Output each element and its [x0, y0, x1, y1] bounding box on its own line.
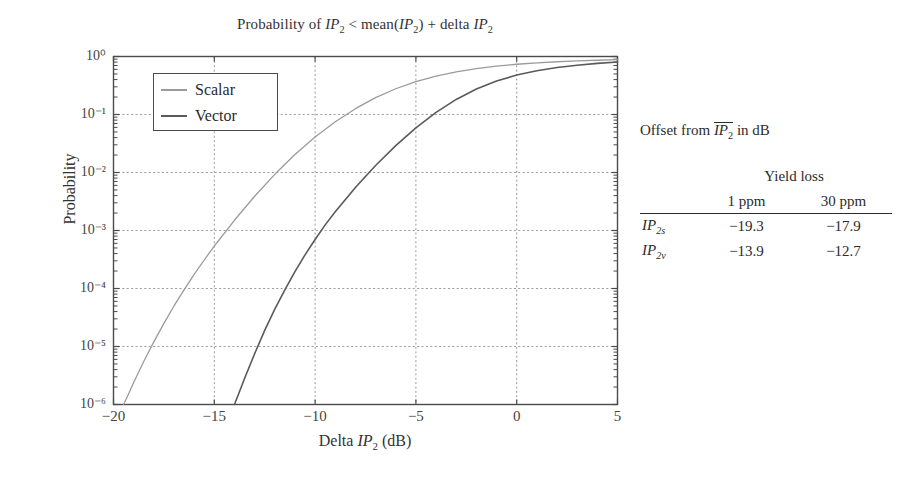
side-table-group-header: Yield loss [640, 168, 910, 185]
table-cell-value: −12.7 [795, 239, 892, 264]
x-axis-label: Delta IP2 (dB) [113, 432, 617, 452]
table-row-label: IP2v [640, 239, 698, 264]
table-col-header-1ppm: 1 ppm [698, 190, 795, 214]
legend-swatch-vector [161, 115, 187, 117]
x-tick-label: −5 [393, 408, 439, 425]
x-tick-label: 5 [595, 408, 641, 425]
table-row: IP2s−19.3−17.9 [640, 213, 892, 239]
x-tick-label: 0 [494, 408, 540, 425]
legend-label-vector: Vector [195, 108, 237, 124]
y-tick-label: 10⁰ [50, 47, 106, 64]
table-row: IP2v−13.9−12.7 [640, 239, 892, 264]
figure-root: Probability of IP2 < mean(IP2) + delta I… [0, 0, 918, 477]
chart-legend: Scalar Vector [153, 73, 278, 131]
table-cell-value: −17.9 [795, 213, 892, 239]
caption-overline-base: IP [714, 122, 728, 138]
side-table: Offset from IP2 in dB Yield loss 1 ppm 3… [640, 122, 910, 264]
side-table-caption: Offset from IP2 in dB [640, 122, 910, 142]
table-col-header-30ppm: 30 ppm [795, 190, 892, 214]
legend-item-scalar: Scalar [154, 77, 277, 103]
y-tick-label: 10⁻¹ [50, 105, 106, 122]
x-tick-label: −15 [191, 408, 237, 425]
caption-overline-term: IP2 [714, 122, 733, 142]
table-header-row: 1 ppm 30 ppm [640, 190, 892, 214]
table-corner-cell [640, 190, 698, 214]
legend-item-vector: Vector [154, 103, 277, 129]
table-body: IP2s−19.3−17.9IP2v−13.9−12.7 [640, 213, 892, 264]
x-tick-label: −10 [292, 408, 338, 425]
y-tick-label: 10⁻⁴ [50, 279, 106, 296]
x-tick-label: −20 [91, 408, 137, 425]
table-cell-value: −19.3 [698, 213, 795, 239]
offset-table: 1 ppm 30 ppm IP2s−19.3−17.9IP2v−13.9−12.… [640, 190, 892, 264]
caption-prefix: Offset from [640, 122, 714, 138]
caption-suffix: in dB [733, 122, 770, 138]
y-tick-label: 10⁻⁵ [50, 337, 106, 354]
table-cell-value: −13.9 [698, 239, 795, 264]
table-row-label: IP2s [640, 213, 698, 239]
legend-swatch-scalar [161, 89, 187, 91]
legend-label-scalar: Scalar [195, 82, 235, 98]
y-axis-label: Probability [61, 124, 79, 254]
